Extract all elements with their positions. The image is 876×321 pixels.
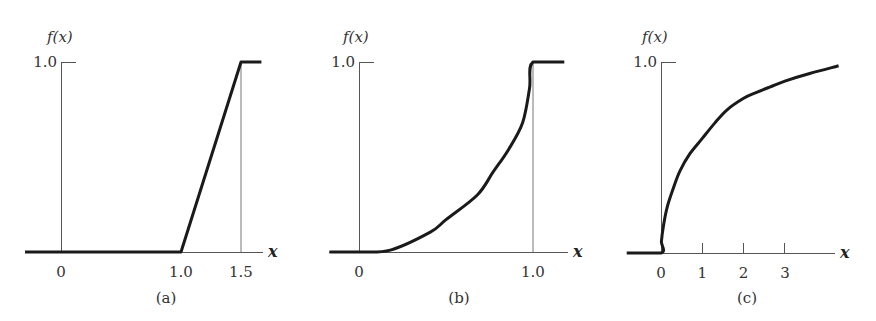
x-tick-label: 1.0 [169,263,193,281]
panel-label: (c) [737,289,757,307]
x-tick-label: 2 [739,264,749,282]
panel-b: 1.001.0f(x)x(b) [329,28,583,307]
series-line-f-x [25,62,261,252]
x-tick-label: 3 [780,264,790,282]
y-tick-label: 1.0 [33,53,57,71]
x-tick-label: 0 [56,263,66,281]
x-axis-label: x [839,243,850,262]
y-axis-label: f(x) [641,28,668,46]
y-tick-label: 1.0 [633,53,657,71]
figure: 1.001.01.5f(x)x(a) 1.001.0f(x)x(b) 1.001… [0,0,876,321]
x-axis-label: x [572,242,583,261]
x-tick-label: 0 [354,263,364,281]
panel-label: (b) [448,289,469,307]
series-line-f-x [329,62,564,252]
x-axis-label: x [267,242,278,261]
y-axis-label: f(x) [342,28,369,46]
x-tick-label: 1.0 [521,263,545,281]
y-axis-label: f(x) [46,28,73,46]
x-tick-label: 1.5 [229,263,253,281]
x-tick-label: 1 [698,264,708,282]
panel-label: (a) [156,289,177,307]
x-tick-label: 0 [656,264,666,282]
series-line-f-x [627,66,839,253]
panel-c: 1.00123f(x)x(c) [627,28,850,307]
panel-a: 1.001.01.5f(x)x(a) [25,28,278,307]
y-tick-label: 1.0 [331,53,355,71]
